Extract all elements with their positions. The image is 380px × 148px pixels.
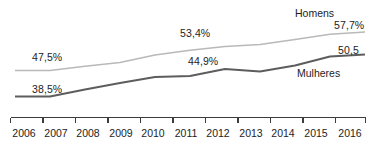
x-tick-label-2016: 2016 xyxy=(330,128,370,139)
data-label-homens-2012: 53,4% xyxy=(180,28,210,39)
series-label-homens: Homens xyxy=(295,8,334,19)
data-label-mulheres-2011: 44,9% xyxy=(188,56,218,67)
x-axis-ticks xyxy=(11,118,366,123)
data-label-homens-2006: 47,5% xyxy=(32,52,62,63)
line-chart: Homens Mulheres 47,5% 53,4% 57,7% 38,5% … xyxy=(0,0,380,148)
data-label-mulheres-2006: 38,5% xyxy=(32,84,62,95)
data-label-mulheres-2016: 50,5 xyxy=(338,45,359,56)
data-label-homens-2016: 57,7% xyxy=(334,20,364,31)
series-label-mulheres: Mulheres xyxy=(297,68,340,79)
